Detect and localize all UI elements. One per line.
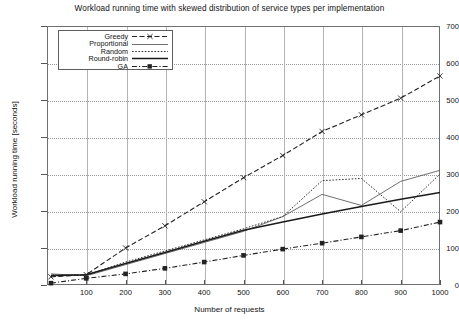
y-axis-tick-mark xyxy=(41,137,47,138)
legend-line-sample xyxy=(131,33,169,40)
gridline-horizontal xyxy=(48,101,439,102)
x-axis-tick-mark xyxy=(204,280,205,285)
x-axis-label: Number of requests xyxy=(0,305,459,314)
y-axis-tick-mark xyxy=(41,285,47,286)
legend-line-sample xyxy=(131,55,169,62)
gridline-vertical xyxy=(362,27,363,284)
gridline-vertical xyxy=(402,27,403,284)
gridline-horizontal xyxy=(48,249,439,250)
gridline-vertical xyxy=(205,27,206,284)
x-axis-tick-mark xyxy=(361,280,362,285)
gridline-horizontal xyxy=(48,212,439,213)
legend-item-ga[interactable]: GA xyxy=(62,63,169,70)
x-axis-tick-mark xyxy=(126,280,127,285)
gridline-vertical xyxy=(284,27,285,284)
chart-title: Workload running time with skewed distri… xyxy=(0,4,459,13)
y-axis-tick-label: 300 xyxy=(419,170,459,179)
y-axis-tick-mark xyxy=(41,211,47,212)
x-axis-tick-mark xyxy=(244,280,245,285)
y-axis-label: Workload running time [seconds] xyxy=(10,50,19,270)
x-axis-tick-mark xyxy=(165,280,166,285)
y-axis-tick-mark xyxy=(41,248,47,249)
x-axis-tick-mark xyxy=(322,280,323,285)
x-axis-tick-mark xyxy=(401,280,402,285)
legend-line-sample xyxy=(131,41,169,48)
legend-line-sample xyxy=(131,63,169,70)
y-axis-tick-label: 400 xyxy=(419,133,459,142)
gridline-horizontal xyxy=(48,175,439,176)
legend-item-round-robin[interactable]: Round-robin xyxy=(62,55,169,62)
legend-line-sample xyxy=(131,48,169,55)
x-axis-tick-label: 200 xyxy=(119,288,132,297)
x-axis-tick-label: 800 xyxy=(355,288,368,297)
x-axis-tick-label: 600 xyxy=(276,288,289,297)
x-axis-tick-label: 400 xyxy=(198,288,211,297)
legend-label: GA xyxy=(118,63,128,70)
x-axis-tick-label: 500 xyxy=(237,288,250,297)
y-axis-tick-label: 500 xyxy=(419,96,459,105)
y-axis-tick-mark xyxy=(41,100,47,101)
x-axis-tick-label: 900 xyxy=(394,288,407,297)
y-axis-tick-label: 100 xyxy=(419,244,459,253)
x-axis-tick-mark xyxy=(283,280,284,285)
chart-container: Workload running time with skewed distri… xyxy=(0,0,459,328)
x-axis-tick-mark xyxy=(440,280,441,285)
y-axis-tick-mark xyxy=(41,26,47,27)
gridline-horizontal xyxy=(48,138,439,139)
x-axis-tick-label: 100 xyxy=(80,288,93,297)
gridline-vertical xyxy=(323,27,324,284)
y-axis-tick-mark xyxy=(41,63,47,64)
x-axis-tick-label: 700 xyxy=(316,288,329,297)
y-axis-tick-label: 600 xyxy=(419,59,459,68)
y-axis-tick-label: 200 xyxy=(419,207,459,216)
x-axis-tick-label: 300 xyxy=(159,288,172,297)
x-axis-tick-label: 1000 xyxy=(432,288,449,297)
gridline-vertical xyxy=(245,27,246,284)
y-axis-tick-mark xyxy=(41,174,47,175)
y-axis-tick-label: 700 xyxy=(419,22,459,31)
x-axis-tick-mark xyxy=(86,280,87,285)
chart-legend: GreedyProportionalRandomRound-robinGA xyxy=(58,30,173,70)
